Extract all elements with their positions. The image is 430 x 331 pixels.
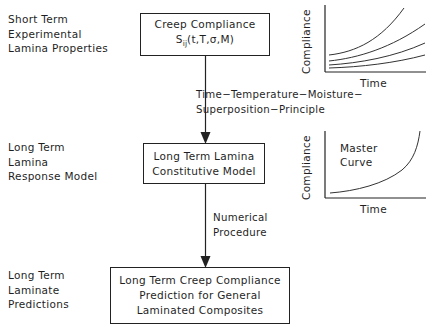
compliance-symbol: S <box>176 33 183 45</box>
chart-family-xlabel: Time <box>359 77 387 89</box>
annotation-numerical-procedure: Numerical Procedure <box>213 211 268 240</box>
chart-family-curve-1 <box>329 8 404 55</box>
stage-label-long-term-lamina: Long Term Lamina Response Model <box>8 140 98 184</box>
chart-master-ylabel: Compliance <box>300 135 312 200</box>
box-constitutive-line-1: Long Term Lamina <box>154 149 255 164</box>
box-long-term-lamina-constitutive-model: Long Term Lamina Constitutive Model <box>143 143 265 184</box>
chart-compliance-family: Compliance Time <box>296 2 430 92</box>
stage-label-long-term-laminate: Long Term Laminate Predictions <box>8 268 69 312</box>
stage-label-short-term: Short Term Experimental Lamina Propertie… <box>8 12 108 56</box>
chart-master-xlabel: Time <box>359 203 387 215</box>
box-long-term-creep-compliance-prediction: Long Term Creep Compliance Prediction fo… <box>110 267 290 324</box>
chart-family-curve-4 <box>329 55 425 68</box>
box-creep-compliance: Creep Compliance Sij(t,T,σ,M) <box>140 13 270 56</box>
chart-family-curve-3 <box>329 43 425 65</box>
box-prediction-line-1: Long Term Creep Compliance <box>119 273 280 288</box>
annotation-time-temperature-moisture-superposition-principle: Time−Temperature−Moisture− Superposition… <box>196 88 363 117</box>
box-constitutive-line-2: Constitutive Model <box>152 164 256 179</box>
box-creep-compliance-formula: Sij(t,T,σ,M) <box>176 32 234 51</box>
flow-diagram-canvas: Short Term Experimental Lamina Propertie… <box>0 0 430 331</box>
chart-family-ylabel: Compliance <box>300 9 312 74</box>
chart-master-label-line-1: Master <box>340 142 378 154</box>
chart-master-curve: Compliance Master Curve Time <box>296 128 430 218</box>
box-creep-compliance-title: Creep Compliance <box>155 17 256 32</box>
box-prediction-line-2: Prediction for General <box>139 288 260 303</box>
box-prediction-line-3: Laminated Composites <box>137 303 264 318</box>
compliance-arguments: (t,T,σ,M) <box>187 33 234 45</box>
chart-master-label-line-2: Curve <box>340 156 372 168</box>
chart-family-curve-2 <box>329 24 425 61</box>
